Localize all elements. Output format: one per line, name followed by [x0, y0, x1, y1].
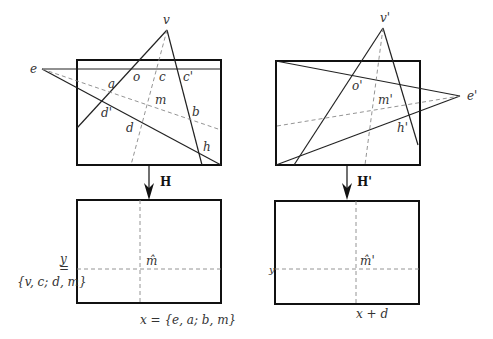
label-y-equals: = [59, 261, 69, 275]
line-e-prime-top [276, 61, 460, 96]
label-d: d [126, 121, 134, 135]
label-y-set: {v, c; d, m} [17, 275, 87, 289]
label-c-prime: c' [183, 70, 193, 84]
label-h-prime: h' [397, 121, 408, 135]
epipolar-rectification-diagram: v e a o c c' m b d' d h H v' e' o' m' h'… [0, 0, 493, 339]
left-rectified-frame [77, 200, 221, 303]
label-y-right: y [268, 264, 275, 275]
label-d-prime: d' [101, 106, 112, 120]
transform-arrow-H-prime: H' [342, 165, 372, 200]
label-m-prime: m' [378, 93, 393, 107]
dashed-line-e-prime [277, 96, 460, 126]
label-e-prime: e' [467, 89, 477, 103]
label-x-plus-d: x + d [356, 307, 388, 321]
line-v-prime-left [294, 28, 383, 165]
left-rectified-view: m̂ y = {v, c; d, m} x = {e, a; b, m} [17, 200, 236, 327]
label-b: b [192, 105, 200, 119]
label-c: c [159, 70, 166, 84]
label-o: o [133, 70, 140, 84]
right-rectified-view: m̂' y x + d [268, 201, 419, 321]
transform-arrow-H: H [144, 165, 171, 200]
label-h: h [203, 140, 211, 154]
right-image-view: v' e' o' m' h' [276, 11, 477, 165]
label-m-hat-prime: m̂' [360, 254, 375, 268]
label-x-set: x = {e, a; b, m} [140, 313, 236, 327]
label-e: e [30, 62, 37, 76]
label-a: a [108, 77, 115, 91]
label-m: m [155, 93, 166, 107]
label-m-hat: m̂ [146, 254, 157, 268]
right-image-frame [276, 61, 420, 165]
label-o-prime: o' [352, 79, 363, 93]
line-e-prime-bottom [276, 96, 460, 165]
left-image-view: v e a o c c' m b d' d h [30, 13, 221, 165]
label-H: H [160, 175, 171, 189]
label-H-prime: H' [357, 175, 372, 189]
right-rectified-frame [275, 201, 419, 304]
label-v-prime: v' [380, 11, 390, 25]
label-v: v [163, 13, 170, 27]
